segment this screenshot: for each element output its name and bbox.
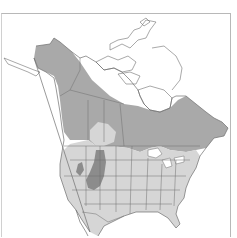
arctic-archipelago [96,18,182,90]
range-map [0,0,237,238]
